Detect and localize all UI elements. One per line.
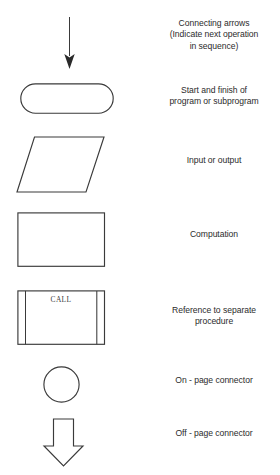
symbol-cell <box>0 362 150 408</box>
symbol-cell <box>0 416 150 470</box>
legend-label-predefined-process: Reference to separate procedure <box>150 305 278 328</box>
symbol-cell <box>0 134 150 196</box>
legend-row-input-output: Input or output <box>0 134 280 196</box>
legend-row-computation: Computation <box>0 210 280 270</box>
legend-label-terminator: Start and finish of program or subprogra… <box>150 85 278 108</box>
legend-label-connecting-arrow: Connecting arrows (Indicate next operati… <box>150 18 278 52</box>
parallelogram-icon <box>16 136 106 194</box>
flowchart-symbol-legend: Connecting arrows (Indicate next operati… <box>0 0 280 475</box>
legend-row-off-page-connector: Off - page connector <box>0 416 280 470</box>
predefined-process-inner-text: CALL <box>18 295 104 304</box>
legend-row-connecting-arrow: Connecting arrows (Indicate next operati… <box>0 8 280 76</box>
symbol-cell <box>0 8 150 76</box>
rectangle-icon <box>17 212 107 268</box>
legend-row-on-page-connector: On - page connector <box>0 362 280 408</box>
connecting-arrow-icon <box>52 16 92 70</box>
legend-label-on-page-connector: On - page connector <box>150 375 278 386</box>
symbol-cell <box>0 210 150 270</box>
terminator-rounded-rectangle-icon <box>20 83 114 115</box>
symbol-cell <box>0 80 150 126</box>
legend-label-off-page-connector: Off - page connector <box>150 428 278 439</box>
legend-label-computation: Computation <box>150 229 278 240</box>
legend-row-terminator: Start and finish of program or subprogra… <box>0 80 280 126</box>
block-arrow-down-icon <box>42 418 86 468</box>
legend-label-input-output: Input or output <box>150 155 278 166</box>
circle-icon <box>42 365 82 405</box>
